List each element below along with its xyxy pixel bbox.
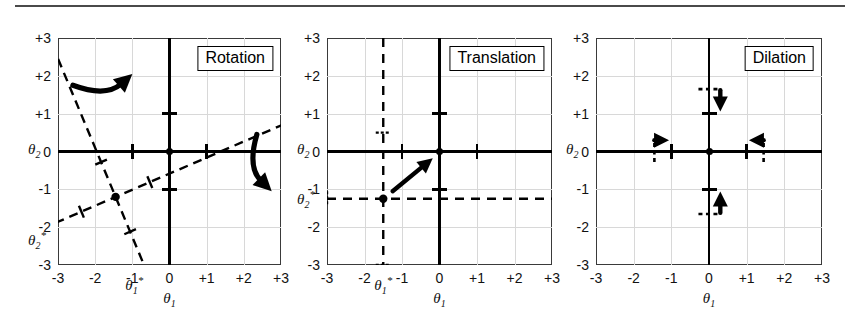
xtick-label-dilation-6: +3	[814, 271, 830, 285]
yaxis-label-dilation: θ2	[566, 142, 578, 162]
transformations-figure: -3-2-10+1+2+3+3+2+10-1-2-3θ1θ2θ1*θ2*Rota…	[0, 0, 852, 312]
dilation-arrow-down-head	[713, 96, 728, 111]
xtick-label-dilation-3: 0	[705, 271, 713, 285]
xaxis-label-dilation: θ1	[703, 291, 715, 311]
title-box-dilation: Dilation	[745, 46, 814, 71]
ytick-label-dilation-4: -1	[577, 182, 589, 196]
ytick-label-dilation-1: +2	[573, 69, 589, 83]
panel-dilation: -3-2-10+1+2+3+3+2+10-1-2-3θ1θ2Dilation	[0, 0, 852, 312]
ytick-label-dilation-0: +3	[573, 31, 589, 45]
xtick-label-dilation-0: -3	[590, 271, 602, 285]
xtick-label-dilation-5: +2	[776, 271, 792, 285]
clipped-group	[654, 89, 764, 214]
dilation-arrow-up-head	[713, 192, 728, 207]
ytick-label-dilation-6: -3	[577, 258, 589, 272]
xtick-label-dilation-2: -1	[665, 271, 677, 285]
xtick-label-dilation-4: +1	[739, 271, 755, 285]
ytick-label-dilation-3: 0	[581, 145, 589, 159]
ytick-label-dilation-5: -2	[577, 220, 589, 234]
dilation-arrow-right-head	[654, 133, 669, 148]
xtick-label-dilation-1: -2	[627, 271, 639, 285]
ytick-label-dilation-2: +1	[573, 107, 589, 121]
dilation-arrow-left-head	[749, 133, 764, 148]
overlay-dilation	[0, 0, 852, 312]
